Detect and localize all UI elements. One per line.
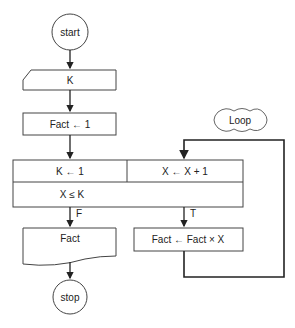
false-label: F [76, 208, 82, 219]
loop-init-label: K ← 1 [56, 166, 84, 177]
init-fact-node: Fact ← 1 [23, 113, 116, 135]
start-label: start [60, 27, 80, 38]
body-node: Fact ← Fact × X [134, 228, 243, 251]
output-fact-node: Fact [23, 228, 116, 265]
input-k-node: K [23, 70, 116, 90]
loop-step-label: X ← X + 1 [162, 166, 208, 177]
start-node: start [52, 14, 88, 50]
input-k-label: K [67, 75, 74, 86]
body-label: Fact ← Fact × X [152, 234, 225, 245]
output-fact-label: Fact [60, 233, 80, 244]
true-label: T [190, 208, 196, 219]
stop-label: stop [61, 292, 80, 303]
loop-annotation-cloud: Loop [214, 109, 267, 132]
loop-annotation-label: Loop [229, 115, 252, 126]
loop-condition-label: X ≤ K [60, 189, 85, 200]
stop-node: stop [53, 280, 87, 314]
init-fact-label: Fact ← 1 [50, 119, 91, 130]
loop-block: K ← 1 X ← X + 1 X ≤ K [13, 160, 243, 207]
flowchart-canvas: start K Fact ← 1 Loop K ← 1 X ← X + 1 X … [0, 0, 295, 328]
